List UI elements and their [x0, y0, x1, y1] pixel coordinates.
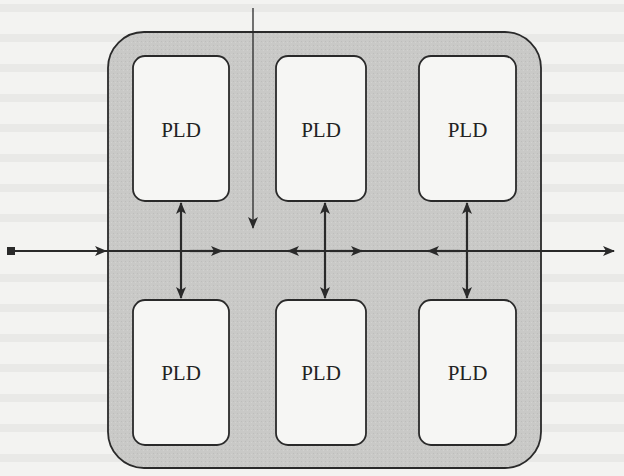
pld-block-top-3: [419, 56, 516, 201]
pld-block-top-1: [133, 56, 229, 201]
pld-block-bottom-2: [276, 300, 366, 445]
diagram-canvas: [0, 0, 624, 476]
multi-pld-diagram: PLD PLD PLD PLD PLD PLD: [0, 0, 624, 476]
pld-block-bottom-1: [133, 300, 229, 445]
pld-block-top-2: [276, 56, 366, 201]
pld-block-bottom-3: [419, 300, 516, 445]
input-terminal-square: [7, 247, 15, 255]
